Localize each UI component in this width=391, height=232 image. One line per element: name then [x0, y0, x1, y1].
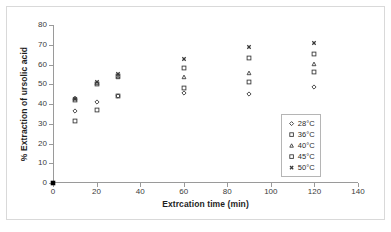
data-point-marker: [94, 80, 99, 85]
data-point-marker: [246, 55, 251, 60]
y-tick-label: 70: [38, 41, 47, 49]
y-tick-label: 40: [38, 100, 47, 108]
y-tick-label: 50: [38, 80, 47, 88]
data-point-marker: [94, 107, 99, 112]
data-point-marker: [181, 90, 186, 95]
x-axis-title-text: Extrcation time (min): [162, 199, 249, 209]
data-point-marker: [246, 91, 251, 96]
data-point-marker: [181, 66, 186, 71]
x-tick-label: 140: [351, 188, 364, 196]
legend-item: 50°C: [286, 162, 315, 173]
data-point-marker: [94, 99, 99, 104]
x-tick-label: 40: [136, 188, 145, 196]
legend-item: 45°C: [286, 151, 315, 162]
legend-item-label: 36°C: [298, 131, 315, 139]
x-tick-label: 60: [179, 188, 188, 196]
data-point-marker: [72, 118, 77, 123]
y-tick-mark: [49, 163, 53, 164]
y-tick-label: 80: [38, 21, 47, 29]
y-tick-mark: [49, 104, 53, 105]
data-point-marker: [312, 40, 317, 45]
x-tick-label: 80: [223, 188, 232, 196]
legend-item-label: 28°C: [298, 120, 315, 128]
data-point-marker: [181, 85, 186, 90]
origin-marker: [50, 180, 56, 186]
x-tick-label: 120: [308, 188, 321, 196]
data-point-marker: [312, 85, 317, 90]
y-tick-label: 20: [38, 140, 47, 148]
y-tick-mark: [49, 84, 53, 85]
chart-screenshot: % Extraction of ursolic acid Extrcation …: [0, 0, 391, 232]
legend-marker-icon: [286, 165, 297, 170]
x-axis-line: [53, 182, 358, 183]
y-tick-mark: [49, 144, 53, 145]
legend-item-label: 40°C: [298, 142, 315, 150]
legend-marker-icon: [286, 132, 297, 137]
x-tick-label: 100: [264, 188, 277, 196]
chart-legend: 28°C36°C40°C45°C 50°C: [281, 114, 321, 177]
figure-frame: % Extraction of ursolic acid Extrcation …: [6, 6, 385, 220]
y-tick-label: 10: [38, 159, 47, 167]
data-point-marker: [116, 93, 121, 98]
y-tick-label: 60: [38, 61, 47, 69]
data-point-marker: [246, 80, 251, 85]
legend-item: 40°C: [286, 140, 315, 151]
y-tick-mark: [49, 65, 53, 66]
y-tick-mark: [49, 124, 53, 125]
y-axis-title: % Extraction of ursolic acid: [17, 25, 31, 183]
legend-item-label: 50°C: [298, 164, 315, 172]
legend-marker-icon: [286, 121, 297, 126]
x-tick-label: 0: [51, 188, 55, 196]
y-tick-mark: [49, 45, 53, 46]
legend-marker-icon: [286, 154, 297, 159]
legend-item: 28°C: [286, 118, 315, 129]
data-point-marker: [312, 70, 317, 75]
y-tick-label: 0: [43, 179, 47, 187]
data-point-marker: [181, 75, 186, 80]
plot-area: 01020304050607080 020406080100120140 28°…: [53, 25, 358, 183]
y-tick-label: 30: [38, 120, 47, 128]
legend-marker-icon: [286, 143, 297, 148]
data-point-marker: [181, 56, 186, 61]
legend-item: 36°C: [286, 129, 315, 140]
data-point-marker: [116, 72, 121, 77]
x-tick-label: 20: [92, 188, 101, 196]
y-axis-title-text: % Extraction of ursolic acid: [19, 47, 29, 161]
y-tick-mark: [49, 25, 53, 26]
legend-item-label: 45°C: [298, 153, 315, 161]
data-point-marker: [246, 71, 251, 76]
data-point-marker: [246, 44, 251, 49]
x-axis-title: Extrcation time (min): [53, 199, 358, 209]
data-point-marker: [72, 96, 77, 101]
data-point-marker: [72, 108, 77, 113]
y-axis-line: [53, 25, 54, 183]
data-point-marker: [312, 61, 317, 66]
data-point-marker: [312, 51, 317, 56]
